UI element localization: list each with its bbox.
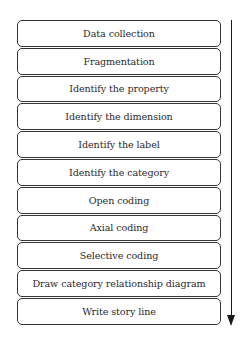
step-identify-property: Identify the property — [17, 76, 221, 103]
step-data-collection: Data collection — [17, 20, 221, 47]
arrow-down-icon-shaft — [231, 20, 233, 316]
step-label: Fragmentation — [83, 56, 154, 67]
step-label: Open coding — [89, 195, 150, 206]
arrow-down-icon — [227, 315, 235, 326]
step-identify-category: Identify the category — [17, 159, 221, 186]
step-identify-dimension: Identify the dimension — [17, 103, 221, 130]
step-label: Selective coding — [80, 250, 159, 261]
step-draw-category-relationship-diagram: Draw category relationship diagram — [17, 270, 221, 297]
step-identify-label: Identify the label — [17, 131, 221, 158]
step-label: Identify the category — [69, 167, 169, 178]
process-flow: Data collection Fragmentation Identify t… — [17, 20, 221, 325]
step-label: Draw category relationship diagram — [32, 278, 205, 289]
step-write-story-line: Write story line — [17, 298, 221, 325]
step-label: Identify the dimension — [65, 111, 172, 122]
step-label: Write story line — [82, 306, 156, 317]
step-label: Identify the label — [78, 139, 159, 150]
step-axial-coding: Axial coding — [17, 215, 221, 242]
step-label: Identify the property — [69, 83, 169, 94]
step-label: Axial coding — [90, 222, 149, 233]
step-open-coding: Open coding — [17, 187, 221, 214]
step-label: Data collection — [83, 28, 155, 39]
step-fragmentation: Fragmentation — [17, 48, 221, 75]
step-selective-coding: Selective coding — [17, 242, 221, 269]
